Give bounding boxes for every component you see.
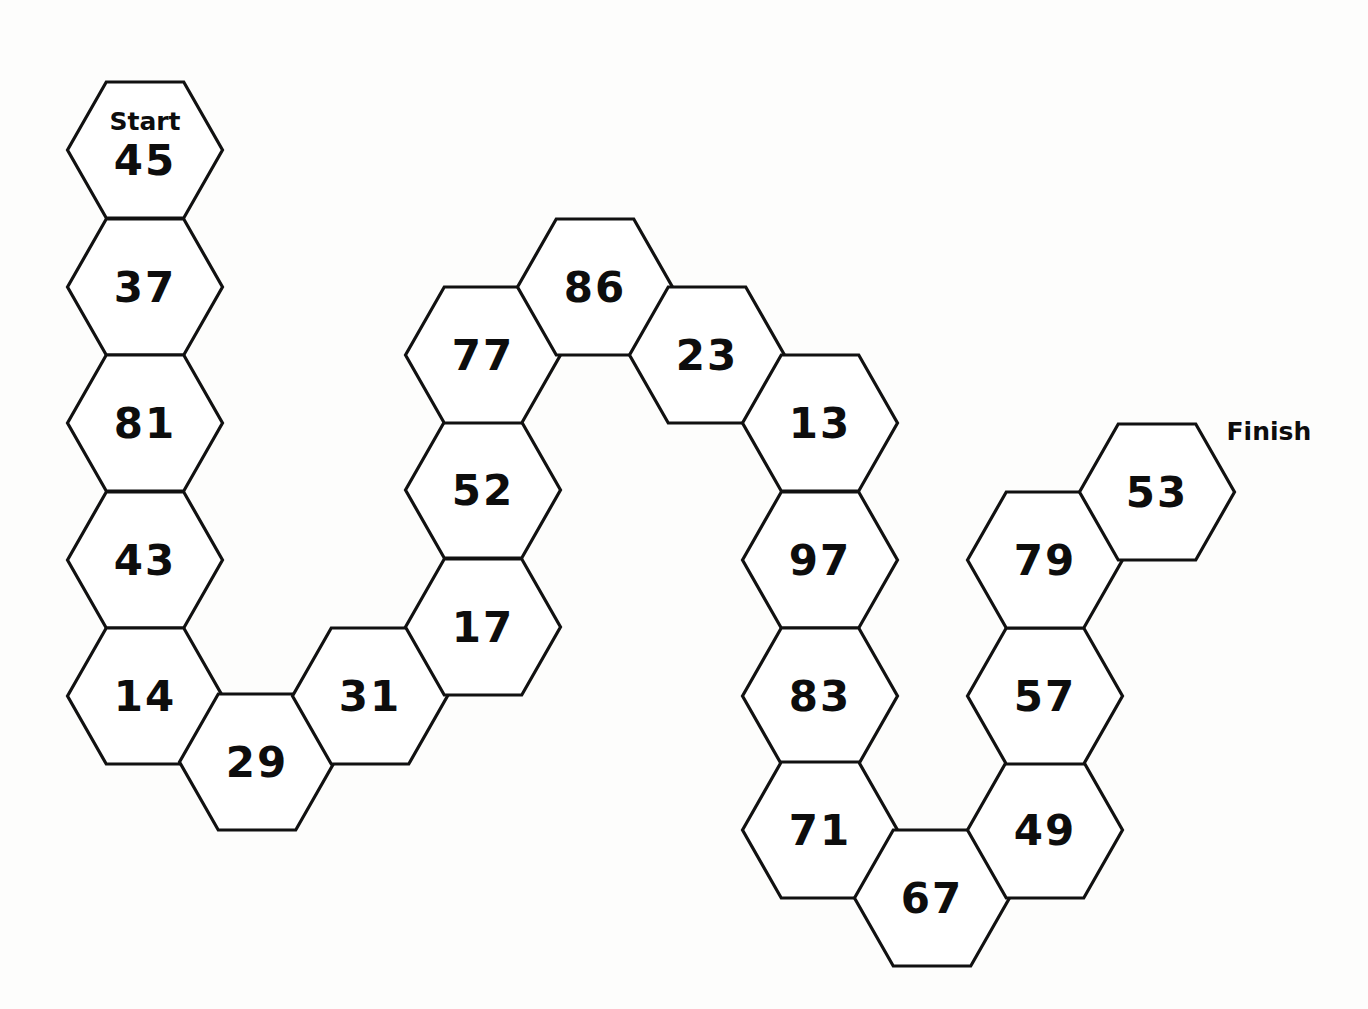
hex-value-label: 86 [564, 263, 626, 312]
hex-value-label: 17 [452, 603, 514, 652]
hex-value-label: 23 [676, 331, 738, 380]
hex-value-label: 81 [114, 399, 176, 448]
hex-value-label: 45 [114, 136, 176, 185]
hex-value-label: 77 [452, 331, 514, 380]
hex-cell[interactable]: 83 [743, 628, 898, 764]
hex-value-label: 52 [452, 466, 514, 515]
finish-marker-label: Finish [1227, 417, 1312, 446]
hex-value-label: 97 [789, 536, 851, 585]
hex-value-label: 49 [1014, 806, 1076, 855]
hexagon-grid: 45Start378143142931175277862313978371674… [0, 0, 1368, 1009]
hex-value-label: 83 [789, 672, 851, 721]
hex-cell[interactable]: 53Finish [1080, 417, 1312, 560]
hex-value-label: 57 [1014, 672, 1076, 721]
hex-value-label: 13 [789, 399, 851, 448]
hex-value-label: 79 [1014, 536, 1076, 585]
hex-value-label: 53 [1126, 468, 1188, 517]
hex-cell[interactable]: 37 [68, 219, 223, 355]
hex-cell[interactable]: 45Start [68, 82, 223, 218]
hex-cell[interactable]: 57 [968, 628, 1123, 764]
hex-cell[interactable]: 43 [68, 492, 223, 628]
hex-cell[interactable]: 52 [406, 422, 561, 558]
hex-cell[interactable]: 81 [68, 355, 223, 491]
hex-value-label: 43 [114, 536, 176, 585]
hex-value-label: 29 [226, 738, 288, 787]
start-marker-label: Start [109, 107, 180, 136]
hex-cell[interactable]: 97 [743, 492, 898, 628]
hex-value-label: 37 [114, 263, 176, 312]
hex-value-label: 14 [114, 672, 176, 721]
hex-value-label: 67 [901, 874, 963, 923]
hex-value-label: 71 [789, 806, 851, 855]
hexagon-puzzle-board: 45Start378143142931175277862313978371674… [0, 0, 1368, 1009]
hex-value-label: 31 [339, 672, 401, 721]
